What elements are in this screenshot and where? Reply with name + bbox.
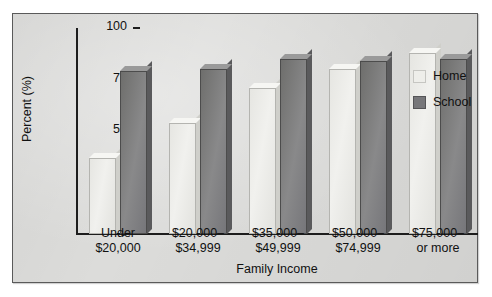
bar-front-face	[120, 71, 147, 234]
bar-side-face	[307, 49, 312, 234]
bar-side-face	[147, 61, 152, 234]
plot-area: 100 75 50 25 0 Percent (%) Family Income	[13, 14, 479, 284]
bar-front-face	[329, 69, 356, 234]
bar-front-face	[249, 88, 276, 234]
bar-group	[318, 28, 398, 234]
bar-group	[78, 28, 158, 234]
x-category-label: Under$20,000	[78, 226, 158, 256]
legend-label-home: Home	[433, 69, 466, 83]
x-category-label-line: $20,000	[78, 241, 158, 256]
bar-school[interactable]	[120, 71, 147, 234]
legend-swatch-school-icon	[413, 96, 426, 109]
bar-school[interactable]	[280, 59, 307, 234]
x-category-label-line: $34,999	[158, 241, 238, 256]
y-axis-title: Percent (%)	[20, 39, 34, 179]
x-category-label-line: $35,000–	[238, 226, 318, 241]
bar-side-face	[227, 59, 232, 234]
bar-school[interactable]	[360, 61, 387, 234]
figure: 100 75 50 25 0 Percent (%) Family Income	[0, 0, 492, 297]
chart-panel: 100 75 50 25 0 Percent (%) Family Income	[12, 13, 478, 283]
bar-home[interactable]	[89, 158, 116, 234]
x-category-label-line: $49,999	[238, 241, 318, 256]
bar-front-face	[89, 158, 116, 234]
bar-front-face	[200, 69, 227, 234]
bar-front-face	[169, 123, 196, 234]
chart-legend: Home School	[413, 66, 475, 118]
bar-school[interactable]	[200, 69, 227, 234]
x-category-label-line: or more	[398, 241, 478, 256]
x-category-label: $20,000–$34,999	[158, 226, 238, 256]
legend-label-school: School	[433, 95, 471, 109]
x-category-label-line: $74,999	[318, 241, 398, 256]
legend-swatch-home-icon	[413, 70, 426, 83]
bar-front-face	[280, 59, 307, 234]
bar-side-face	[387, 51, 392, 234]
x-category-label: $50,000–$74,999	[318, 226, 398, 256]
bar-group	[158, 28, 238, 234]
x-category-label-line: $50,000–	[318, 226, 398, 241]
x-category-label: $75,000–or more	[398, 226, 478, 256]
legend-item-home[interactable]: Home	[413, 66, 475, 86]
x-category-label-line: $75,000–	[398, 226, 478, 241]
bar-home[interactable]	[169, 123, 196, 234]
bar-group	[398, 28, 478, 234]
x-category-label: $35,000–$49,999	[238, 226, 318, 256]
legend-item-school[interactable]: School	[413, 92, 475, 112]
bar-home[interactable]	[329, 69, 356, 234]
bar-home[interactable]	[249, 88, 276, 234]
x-axis-title: Family Income	[76, 262, 478, 276]
x-category-label-line: Under	[78, 226, 158, 241]
bar-series-container	[78, 28, 478, 234]
x-category-label-line: $20,000–	[158, 226, 238, 241]
bar-group	[238, 28, 318, 234]
bar-front-face	[360, 61, 387, 234]
